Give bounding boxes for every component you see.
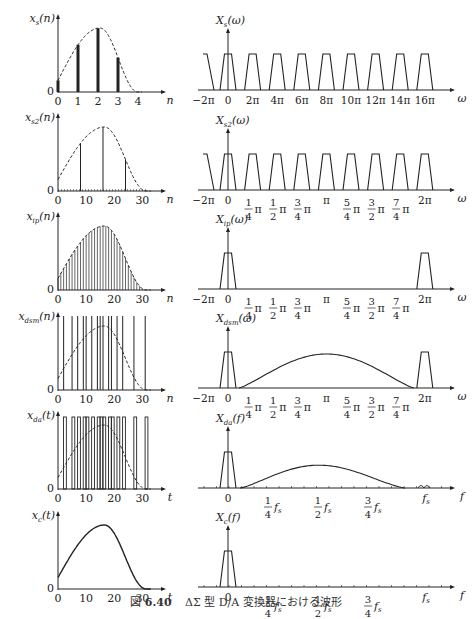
panel-xdsm: n0xdsm(n)0102030 bbox=[18, 310, 173, 406]
panel-Xip: ωXip(ω)−2π014π12π34ππ54π32π74π2π bbox=[192, 213, 466, 321]
x-tick-label: 0 bbox=[225, 194, 232, 206]
y-zero-label: 0 bbox=[47, 85, 54, 98]
label: π bbox=[353, 302, 360, 315]
label: 2 bbox=[270, 211, 276, 222]
label: 4 bbox=[365, 608, 371, 619]
x-tick-label: −2π bbox=[192, 94, 214, 106]
label: π bbox=[255, 203, 262, 216]
y-zero-label: 0 bbox=[47, 383, 54, 396]
axis-ylabel: xip(n) bbox=[26, 210, 55, 225]
label: π bbox=[279, 302, 286, 315]
spectral-image bbox=[417, 54, 433, 90]
label: 1 bbox=[315, 495, 321, 506]
x-tick-label: 3 bbox=[115, 95, 122, 108]
x-tick-label: 30 bbox=[135, 293, 149, 306]
panel-xs: n0xs(n)01234 bbox=[30, 12, 174, 108]
x-tick-label: 30 bbox=[135, 194, 149, 207]
label: 4 bbox=[265, 509, 271, 520]
y-zero-label: 0 bbox=[47, 184, 54, 197]
label: 4 bbox=[393, 211, 399, 222]
x-tick-label: 16π bbox=[415, 94, 435, 106]
spectral-image bbox=[294, 54, 310, 90]
axis-xlabel: ω bbox=[458, 92, 467, 105]
x-tick-label: 2π bbox=[418, 392, 432, 404]
axis-ylabel: Xda(f) bbox=[215, 412, 245, 427]
x-tick-label: 74π bbox=[392, 395, 409, 420]
label: 1 bbox=[270, 197, 276, 208]
label: π bbox=[304, 401, 311, 414]
x-tick-label: 10 bbox=[79, 492, 93, 505]
label: 3 bbox=[365, 495, 371, 506]
x-tick-label: −2π bbox=[192, 293, 214, 305]
axis-xlabel: t bbox=[168, 491, 173, 504]
pulse bbox=[92, 417, 95, 489]
x-tick-label: 12π bbox=[269, 197, 286, 222]
envelope-curve bbox=[58, 127, 151, 191]
label: 7 bbox=[393, 296, 399, 307]
x-tick-label: 34π bbox=[294, 296, 311, 321]
label: 2 bbox=[368, 310, 374, 321]
x-tick-label: 32π bbox=[368, 395, 385, 420]
label: π bbox=[279, 203, 286, 216]
x-tick-label: 10 bbox=[79, 393, 93, 406]
figure-caption: 図 6.40 ΔΣ 型 D/A 変換器における波形 bbox=[0, 593, 472, 609]
label: 1 bbox=[245, 197, 251, 208]
label: 4 bbox=[265, 608, 271, 619]
label: π bbox=[402, 203, 409, 216]
label: π bbox=[378, 401, 385, 414]
pulse bbox=[64, 417, 67, 489]
panel-Xs2: ωXs2(ω)−2π014π12π34ππ54π32π74π2π bbox=[192, 114, 466, 222]
label: 3 bbox=[295, 395, 301, 406]
x-tick-label: 0 bbox=[225, 492, 232, 504]
panel-Xdsm: ωXdsm(ω)−2π014π12π34ππ54π32π74π2π bbox=[192, 312, 466, 420]
x-tick-label: 74π bbox=[392, 296, 409, 321]
axis-ylabel: xda(t) bbox=[27, 409, 55, 424]
x-tick-label: 4 bbox=[135, 95, 142, 108]
x-tick-label: 0 bbox=[225, 293, 232, 305]
x-tick-label: 12π bbox=[269, 395, 286, 420]
label: 4 bbox=[344, 211, 350, 222]
spectral-image bbox=[245, 154, 261, 190]
x-tick-label: 20 bbox=[107, 393, 121, 406]
label: 2 bbox=[270, 310, 276, 321]
axis-ylabel: Xs(ω) bbox=[215, 14, 245, 29]
x-tick-label: 4π bbox=[270, 94, 284, 106]
label: π bbox=[304, 302, 311, 315]
axis-ylabel: Xdsm(ω) bbox=[215, 312, 256, 327]
panel-xip: n0xip(n)0102030 bbox=[26, 210, 173, 306]
spectral-image bbox=[417, 352, 433, 388]
panel-xc: t0xc(t)0102030 bbox=[32, 509, 173, 605]
spectral-image bbox=[417, 253, 433, 289]
spectral-image bbox=[294, 154, 310, 190]
x-tick-label: 12π bbox=[365, 94, 385, 106]
label: π bbox=[402, 401, 409, 414]
label: 4 bbox=[365, 509, 371, 520]
axis-ylabel: Xip(ω) bbox=[215, 213, 248, 228]
panel-xda: t0xda(t)0102030 bbox=[27, 409, 173, 505]
x-tick-label: π bbox=[323, 392, 330, 404]
pulse bbox=[72, 417, 75, 489]
x-tick-label: 0 bbox=[55, 393, 62, 406]
label: fs bbox=[373, 501, 382, 515]
x-tick-label: 14π bbox=[390, 94, 410, 106]
pulse bbox=[86, 417, 89, 489]
x-tick-label: 6π bbox=[295, 94, 309, 106]
panel-Xda: fXda(f)014fs12fs34fsfs bbox=[198, 412, 466, 520]
pulse bbox=[111, 417, 114, 489]
label: 1 bbox=[245, 395, 251, 406]
panel-Xs: ωXs(ω)−2π02π4π6π8π10π12π14π16π bbox=[192, 14, 466, 106]
axis-ylabel: Xc(f) bbox=[215, 511, 240, 526]
x-tick-label: 2 bbox=[95, 95, 102, 108]
x-tick-label: 1 bbox=[75, 95, 82, 108]
label: 2 bbox=[368, 409, 374, 420]
pulse bbox=[103, 417, 106, 489]
x-tick-label: 10π bbox=[341, 94, 361, 106]
noise-shaping-curve bbox=[240, 465, 405, 488]
spectral-image bbox=[269, 54, 285, 90]
x-tick-label: 54π bbox=[343, 395, 360, 420]
spectral-image bbox=[318, 154, 334, 190]
y-zero-label: 0 bbox=[47, 283, 54, 296]
label: 1 bbox=[270, 395, 276, 406]
x-tick-label: 30 bbox=[135, 393, 149, 406]
label: 5 bbox=[344, 296, 350, 307]
